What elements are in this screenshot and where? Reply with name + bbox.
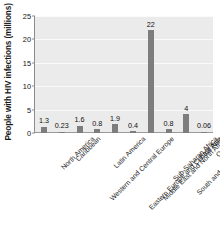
hiv-infections-bar-chart: People with HIV infections (millions) 05… — [0, 0, 220, 230]
gridline — [35, 16, 213, 17]
bar-value-label: 0.06 — [197, 121, 211, 130]
bar[interactable] — [201, 132, 207, 133]
bar[interactable] — [41, 127, 47, 133]
plot-area: 05101520251.30.231.60.81.90.4220.840.06 — [34, 16, 213, 133]
bar[interactable] — [148, 30, 154, 133]
bar-value-label: 0.8 — [92, 119, 102, 128]
bar[interactable] — [112, 124, 118, 133]
bar-value-label: 1.9 — [110, 114, 120, 123]
bar-value-label: 4 — [184, 104, 188, 113]
y-axis-title: People with HIV infections (millions) — [4, 11, 13, 141]
bar[interactable] — [77, 126, 83, 133]
y-axis-tick-label: 10 — [23, 82, 35, 91]
y-axis-tick-label: 15 — [23, 58, 35, 67]
bar-value-label: 1.6 — [75, 115, 85, 124]
bar-value-label: 0.4 — [128, 121, 138, 130]
bar[interactable] — [130, 131, 136, 133]
bar[interactable] — [183, 114, 189, 133]
gridline — [35, 63, 213, 64]
y-axis-tick-label: 0 — [27, 129, 35, 138]
bar[interactable] — [94, 129, 100, 133]
gridline — [35, 39, 213, 40]
gridline — [35, 86, 213, 87]
bar-value-label: 1.3 — [39, 116, 49, 125]
bar-value-label: 0.23 — [55, 121, 69, 130]
y-axis-tick-label: 5 — [27, 105, 35, 114]
bar[interactable] — [166, 129, 172, 133]
bar-value-label: 0.8 — [164, 119, 174, 128]
y-axis-tick-label: 20 — [23, 35, 35, 44]
bar-value-label: 22 — [147, 20, 155, 29]
bar[interactable] — [59, 132, 65, 133]
y-axis-tick-label: 25 — [23, 12, 35, 21]
